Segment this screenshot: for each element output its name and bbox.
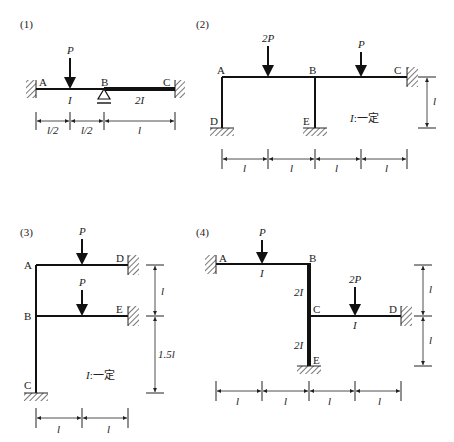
dim-label: l <box>385 162 388 174</box>
dim-label: l <box>328 395 331 407</box>
node-label-B: B <box>24 310 31 322</box>
node-label-C: C <box>313 303 320 315</box>
node-label-E: E <box>303 115 310 127</box>
dim-label: l <box>161 285 164 297</box>
dim-label: l <box>57 423 60 435</box>
diagram-4: (4) P 2P A B C D E I 2I I 2I <box>196 226 432 407</box>
node-label-C: C <box>394 64 401 76</box>
load-arrow <box>256 240 268 264</box>
dim-label: l <box>378 395 381 407</box>
dimension-lines <box>36 408 128 428</box>
node-label-B: B <box>309 64 316 76</box>
node-label-A: A <box>39 76 47 88</box>
stiffness-label: 2I <box>135 94 146 106</box>
pin-support <box>97 89 111 103</box>
dim-label: l <box>138 124 141 136</box>
node-label-E: E <box>116 303 123 315</box>
load-label: P <box>357 38 365 50</box>
node-label-C: C <box>163 76 170 88</box>
fixed-support-C <box>407 67 418 87</box>
diagram-number: (4) <box>196 226 209 239</box>
dim-label: l <box>335 162 338 174</box>
load-label: 2P <box>349 273 362 285</box>
diagram-3: (3) P P A B C D E I:一定 <box>20 225 175 435</box>
load-label: 2P <box>262 32 275 44</box>
fixed-support-C <box>24 393 48 401</box>
load-label: P <box>66 44 74 56</box>
load-arrow <box>64 58 76 89</box>
node-label-A: A <box>219 252 227 264</box>
dim-label: l <box>243 162 246 174</box>
dimension-lines <box>216 381 401 401</box>
dim-label: l <box>433 95 436 107</box>
fixed-support-right <box>175 80 185 98</box>
node-label-A: A <box>217 64 225 76</box>
node-label-B: B <box>101 76 108 88</box>
load-label: P <box>78 225 86 237</box>
load-label: P <box>78 276 86 288</box>
node-label-A: A <box>24 259 32 271</box>
dim-label: l <box>107 423 110 435</box>
dim-label: l <box>236 395 239 407</box>
dimension-lines <box>222 149 407 169</box>
stiffness-label: I <box>67 94 73 106</box>
load-arrow <box>355 52 367 77</box>
load-arrow <box>349 287 361 316</box>
dim-label: l <box>429 283 432 295</box>
dim-label: l <box>284 395 287 407</box>
node-label-C: C <box>24 379 31 391</box>
stiffness-label: 2I <box>294 339 305 351</box>
stiffness-label: I <box>352 319 358 331</box>
dim-label: l/2 <box>81 124 93 136</box>
fixed-support-D <box>128 255 139 275</box>
stiffness-note: I:一定 <box>349 111 379 124</box>
fixed-support-E <box>128 306 139 326</box>
load-arrow <box>262 46 274 77</box>
fixed-support-E <box>297 366 321 374</box>
stiffness-label: I <box>259 267 265 279</box>
dim-label: l/2 <box>47 124 59 136</box>
dimension-lines <box>414 265 432 366</box>
fixed-support-D <box>401 306 412 326</box>
stiffness-note: I:一定 <box>85 368 115 381</box>
diagram-2: (2) 2P P A B C D E I:一定 <box>196 18 436 174</box>
dim-label: 1.5l <box>158 348 175 360</box>
node-label-D: D <box>210 115 218 127</box>
node-label-D: D <box>389 303 397 315</box>
node-label-E: E <box>313 354 320 366</box>
load-arrow <box>76 239 88 265</box>
dim-label: l <box>429 334 432 346</box>
node-label-B: B <box>309 252 316 264</box>
structural-diagrams: (1) P A B C I 2I <box>0 0 454 442</box>
dim-label: l <box>290 162 293 174</box>
diagram-number: (1) <box>20 18 33 31</box>
node-label-D: D <box>116 252 124 264</box>
diagram-number: (3) <box>20 226 33 239</box>
diagram-number: (2) <box>196 18 209 31</box>
fixed-support-D <box>210 128 234 136</box>
diagram-1: (1) P A B C I 2I <box>20 18 185 136</box>
fixed-support-A <box>205 255 216 274</box>
fixed-support-left <box>26 80 36 98</box>
load-arrow <box>76 290 88 316</box>
stiffness-label: 2I <box>294 286 305 298</box>
load-label: P <box>258 226 266 238</box>
fixed-support-E <box>303 128 327 136</box>
